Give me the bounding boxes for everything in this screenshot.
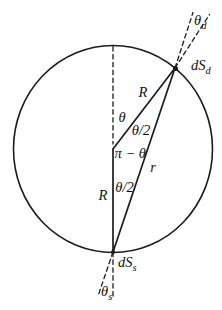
label-theta-s: θs <box>101 283 112 302</box>
point-dSs <box>111 250 115 254</box>
label-theta-d: θd <box>194 12 207 31</box>
dSd-base: dS <box>191 57 206 73</box>
theta-d-base: θ <box>194 12 201 28</box>
dSd-subscript: d <box>206 65 212 76</box>
label-radius-upper: R <box>138 84 148 100</box>
label-dSd: dSd <box>191 57 212 76</box>
label-dSs: dSs <box>118 254 137 273</box>
label-theta-half-lower: θ/2 <box>115 179 133 195</box>
point-dSd <box>173 66 178 71</box>
theta-s-subscript: s <box>108 291 112 302</box>
label-theta: θ <box>118 109 125 125</box>
sphere-geometry-diagram: θd dSd R θ θ/2 π − θ r θ/2 R dSs θs <box>0 0 222 310</box>
label-theta-half-upper: θ/2 <box>132 122 150 138</box>
diagram-container: θd dSd R θ θ/2 π − θ r θ/2 R dSs θs <box>0 0 222 310</box>
dSs-subscript: s <box>133 262 137 273</box>
theta-d-subscript: d <box>201 20 207 31</box>
theta-s-base: θ <box>101 283 108 299</box>
label-pi-minus-theta: π − θ <box>115 145 146 161</box>
label-chord-r: r <box>150 159 156 175</box>
label-radius-lower: R <box>98 187 108 203</box>
dSs-base: dS <box>118 254 133 270</box>
